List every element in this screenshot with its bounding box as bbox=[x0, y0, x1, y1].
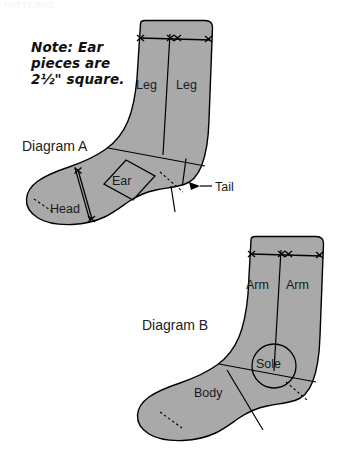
sock-b-outline bbox=[137, 237, 323, 441]
label-ear: Ear bbox=[112, 174, 131, 189]
label-tail: Tail bbox=[215, 180, 234, 195]
diagram-a-caption: Diagram A bbox=[22, 138, 87, 155]
ear-note-line-3: 2½" square. bbox=[31, 72, 125, 88]
label-sole: Sole bbox=[256, 357, 281, 372]
label-leg-left: Leg bbox=[136, 78, 157, 93]
label-head: Head bbox=[50, 202, 80, 217]
diagram-b-caption: Diagram B bbox=[142, 317, 208, 334]
ear-note-line-2: pieces are bbox=[31, 56, 125, 72]
diagram-b-group bbox=[137, 237, 323, 441]
tail-callout bbox=[189, 182, 212, 190]
label-arm-right: Arm bbox=[286, 278, 309, 293]
sock-a-heel-seam-lower bbox=[171, 186, 175, 212]
label-body: Body bbox=[194, 386, 223, 401]
label-arm-left: Arm bbox=[246, 278, 269, 293]
label-leg-right: Leg bbox=[176, 78, 197, 93]
pattern-diagram-stage: PATTERNS bbox=[0, 0, 346, 463]
ear-note-line-1: Note: Ear bbox=[31, 40, 125, 56]
ear-note: Note: Ear pieces are 2½" square. bbox=[31, 40, 125, 88]
